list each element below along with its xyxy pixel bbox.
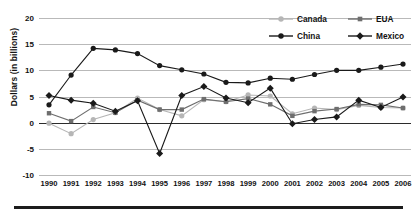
data-point [246,80,251,85]
data-point [47,111,51,115]
x-tick-label-1997: 1997 [195,179,212,188]
x-tick-label-1998: 1998 [218,179,235,188]
data-point [334,68,339,73]
x-tick-label-2001: 2001 [284,179,301,188]
data-point [311,116,318,123]
data-point [179,67,184,72]
y-axis-title: Dollars (in billions) [9,7,19,127]
data-point [178,92,185,99]
y-tick-label--5: -5 [27,144,34,153]
data-point [268,93,273,98]
data-point [378,65,383,70]
data-point [401,106,405,110]
x-tick-label-1995: 1995 [151,179,168,188]
legend-label-china: China [297,31,320,41]
data-point [68,97,75,104]
data-point [91,46,96,51]
data-point [290,114,294,118]
data-point [135,51,140,56]
data-point [200,83,207,90]
x-tick-label-1990: 1990 [41,179,58,188]
data-point [312,109,316,113]
bottom-rule [14,206,403,209]
y-tick-label--10: -10 [22,171,34,180]
series-mexico [46,83,407,157]
data-point [400,94,407,101]
x-tick-label-2005: 2005 [372,179,389,188]
data-point [356,68,361,73]
line-chart-figure: Dollars (in billions) 20151050-5-10 1990… [0,0,417,218]
data-point [278,33,283,38]
legend-symbol-mexico [347,30,373,42]
data-point [113,47,118,52]
data-point [201,71,206,76]
data-point [334,107,338,111]
data-point [69,131,74,136]
x-tick-label-1996: 1996 [173,179,190,188]
data-point [91,117,96,122]
data-point [69,72,74,77]
data-point [69,119,73,123]
data-point [267,85,274,92]
data-point [223,80,228,85]
y-tick-label-15: 15 [25,40,34,49]
data-point [289,120,296,127]
legend-item-canada[interactable]: Canada [268,12,327,26]
x-tick-label-2000: 2000 [262,179,279,188]
data-point [46,92,53,99]
data-point [268,102,272,106]
data-point [358,17,363,22]
legend-item-china[interactable]: China [268,29,320,43]
legend-label-canada: Canada [297,14,327,24]
x-tick-label-2002: 2002 [306,179,323,188]
data-point [46,102,51,107]
y-tick-label-10: 10 [25,66,34,75]
legend-symbol-eua [347,13,373,25]
data-point [245,99,252,106]
x-tick-label-1994: 1994 [129,179,146,188]
data-point [90,100,97,107]
data-point [290,77,295,82]
legend-item-mexico[interactable]: Mexico [347,29,404,43]
x-tick-label-1991: 1991 [63,179,80,188]
data-point [356,32,363,39]
x-tick-label-2004: 2004 [350,179,367,188]
data-point [202,97,206,101]
data-point [278,16,283,21]
data-point [179,113,184,118]
data-point [157,63,162,68]
data-point [268,76,273,81]
x-tick-label-1992: 1992 [85,179,102,188]
data-point [46,121,51,126]
x-tick-label-1999: 1999 [240,179,257,188]
legend-label-mexico: Mexico [376,31,404,41]
x-axis-ticks: 1990199119921993199419951996199719981999… [39,179,411,193]
legend-label-eua: EUA [376,14,394,24]
x-tick-label-2003: 2003 [328,179,345,188]
x-tick-label-2006: 2006 [395,179,412,188]
y-tick-label-5: 5 [30,92,34,101]
data-point [157,107,161,111]
x-tick-label-1993: 1993 [107,179,124,188]
legend-item-eua[interactable]: EUA [347,12,394,26]
data-point [156,150,163,157]
legend-symbol-canada [268,13,294,25]
y-tick-label-20: 20 [25,14,34,23]
gridline--10: -10 [39,175,411,176]
legend-symbol-china [268,30,294,42]
data-point [180,107,184,111]
y-tick-label-0: 0 [30,118,34,127]
data-point [400,61,405,66]
chart-legend: Canada EUA China Mexico [268,12,414,50]
data-point [312,72,317,77]
